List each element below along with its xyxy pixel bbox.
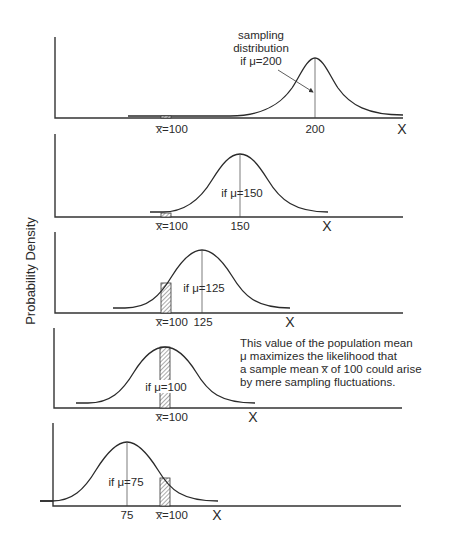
note-line-3: a sample mean x̅ of 100 could arise <box>240 363 422 375</box>
note-line-1: This value of the population mean <box>240 337 413 349</box>
panel-mu-150: if μ=150 x̅=100 150 X <box>55 134 403 234</box>
mu-label: if μ=125 <box>183 282 224 294</box>
annotation-arrow <box>278 70 313 92</box>
xbar-tick-label: x̅=100 <box>155 220 188 232</box>
annotation-line-2: distribution <box>233 42 289 54</box>
xbar-tick-label: x̅=100 <box>155 509 188 521</box>
mu-tick-label: 75 <box>121 509 134 521</box>
xbar-tick-label: x̅=100 <box>155 123 188 135</box>
mu-label: if μ=150 <box>221 187 262 199</box>
mu-label: if μ=75 <box>108 476 143 488</box>
panel-mu-200: sampling distribution if μ=200 x̅=100 20… <box>55 29 407 137</box>
mu-tick-label: 125 <box>193 316 212 328</box>
xbar-shaded-strip <box>161 116 171 118</box>
panel-mu-125: if μ=125 x̅=100 125 X <box>55 232 403 330</box>
note-line-2: μ maximizes the likelihood that <box>240 350 398 362</box>
distribution-curve <box>40 442 218 501</box>
y-axis-label: Probability Density <box>23 217 38 325</box>
mu-tick-label: 150 <box>230 220 249 232</box>
likelihood-note: This value of the population mean μ maxi… <box>240 337 422 388</box>
annotation-line-1: sampling <box>238 29 284 41</box>
xbar-shaded-strip <box>161 213 171 217</box>
distribution-curve <box>150 154 328 212</box>
annotation-line-3: if μ=200 <box>240 55 281 67</box>
note-line-4: by mere sampling fluctuations. <box>240 376 395 388</box>
xbar-shaded-strip <box>160 478 170 506</box>
xbar-tick-label: x̅=100 <box>155 316 188 328</box>
axis-lines <box>55 37 403 118</box>
axis-lines <box>40 423 401 506</box>
xbar-shaded-strip <box>161 283 171 313</box>
x-axis-label: X <box>212 507 222 523</box>
axis-lines <box>55 134 403 217</box>
panel-mu-75: if μ=75 75 x̅=100 X <box>40 423 401 523</box>
mu-tick-label: 200 <box>305 123 324 135</box>
x-axis-label: X <box>397 121 407 137</box>
likelihood-figure: Probability Density sampling distributio… <box>0 0 452 547</box>
distribution-curve <box>113 250 290 308</box>
xbar-shaded-strip <box>160 347 170 408</box>
xbar-tick-label: x̅=100 <box>155 411 188 423</box>
mu-label: if μ=100 <box>145 381 186 393</box>
panel-mu-100: if μ=100 x̅=100 X This value of the popu… <box>54 328 422 425</box>
x-axis-label: X <box>248 409 258 425</box>
x-axis-label: X <box>285 314 295 330</box>
x-axis-label: X <box>322 218 332 234</box>
